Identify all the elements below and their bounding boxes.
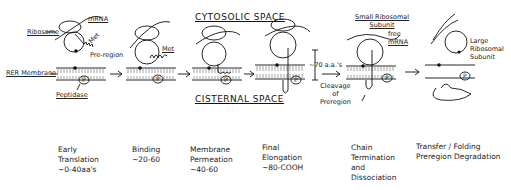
ribosome-label: Ribosome — [27, 28, 59, 36]
pre-region-label: Pre-region — [90, 51, 123, 59]
peptidase-leader — [77, 84, 80, 90]
small-subunit-label: Small Ribosomal Subunit — [355, 13, 409, 29]
cisternal-space-heading: CISTERNAL SPACE — [195, 94, 284, 104]
peptidase-symbol-2: P — [156, 75, 160, 83]
cytosolic-space-heading: CYTOSOLIC SPACE — [195, 12, 285, 22]
aa70-label: ~70 a.a.'s — [309, 61, 342, 69]
membrane-stage-6 — [425, 65, 475, 78]
met-label-2: Met — [162, 45, 174, 53]
ribosome-stage-3 — [196, 26, 240, 74]
peptidase-label: Peptidase — [56, 91, 88, 99]
peptidase-symbol-6: P — [463, 72, 467, 80]
mrna-label: mRNA — [88, 15, 108, 23]
peptidase-symbol-3: P — [224, 76, 228, 84]
peptidase-symbol-5: P — [385, 74, 389, 82]
membrane-stage-3 — [192, 68, 242, 80]
ribosome-stage-2 — [130, 22, 170, 64]
cleavage-label: Cleavage of Preregion — [320, 82, 351, 106]
signal-hypothesis-diagram: CYTOSOLIC SPACE CISTERNAL SPACE Ribosome… — [0, 0, 511, 190]
large-subunit-label: Large Ribosomal Subunit — [470, 37, 504, 61]
peptidase-symbol-4: P — [294, 76, 298, 84]
stage-transfer-folding: Transfer / FoldingPreregion Degradation — [416, 142, 501, 162]
stage-early-translation: EarlyTranslation~0-40aa's — [58, 145, 99, 175]
rer-membrane-label: RER Membrane — [6, 69, 56, 77]
stage-final-elongation: FinalElongation~80-COOH — [262, 143, 303, 173]
stage-binding: Binding~20-60 — [132, 145, 160, 165]
peptidase-symbol-1: P — [82, 76, 86, 84]
free-mrna-label: free mRNA — [388, 30, 408, 46]
stage-membrane-permeation: MembranePermeation~40-60 — [190, 145, 233, 175]
membrane-stage-2 — [126, 68, 176, 80]
ribosome-stage-6 — [431, 14, 471, 100]
membrane-stage-1 — [56, 68, 106, 80]
stage-chain-termination: ChainTerminationandDissociation — [351, 143, 396, 183]
